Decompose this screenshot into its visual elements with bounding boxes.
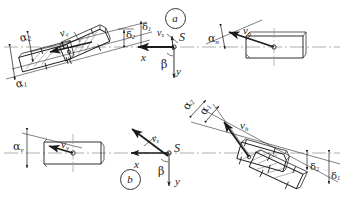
panel-badge-b: b [120, 169, 141, 190]
diagram-root: α2α1vvδ2δ1vsSxβyαnvhαvvvvsSxβyα2α1vhδ2δ1… [0, 0, 344, 197]
rear-body-a [206, 20, 306, 66]
rear-body-b2 [247, 149, 307, 195]
panel-badge-a: a [165, 8, 186, 29]
label-b_vv: vv [61, 139, 69, 151]
label-b_beta: β [158, 166, 164, 177]
label-b_delta2: δ2 [310, 162, 319, 173]
diagram-canvas [0, 0, 344, 197]
label-b_alphav: αv [13, 141, 23, 153]
beta-arc-b [161, 159, 168, 162]
label-b_y: y [175, 176, 180, 187]
label-b_delta1: δ1 [331, 171, 340, 182]
panel-a [4, 20, 340, 80]
label-a_y: y [176, 66, 181, 77]
vh-arrow-a [229, 32, 274, 47]
panel-b [4, 100, 340, 194]
rear-body-b1 [235, 138, 290, 177]
label-a_delta2: δ2 [126, 30, 135, 41]
label-b_vh: vh [240, 120, 248, 132]
label-b_vs: vs [152, 134, 159, 145]
alpha1-angle-a [10, 47, 15, 80]
label-a_vs: vs [157, 28, 164, 39]
beta-arc-a [167, 53, 173, 56]
label-a_delta1: δ1 [142, 22, 151, 33]
label-a_S: S [179, 31, 185, 43]
label-a_beta: β [161, 59, 167, 70]
front-body-a [18, 40, 76, 76]
label-a_alphan: αn [208, 33, 219, 45]
label-a_vh: vh [243, 25, 251, 37]
label-b_x: x [134, 159, 139, 170]
vs-arrow-b [132, 129, 168, 156]
label-a_x: x [141, 52, 146, 63]
label-b_S: S [174, 142, 180, 154]
